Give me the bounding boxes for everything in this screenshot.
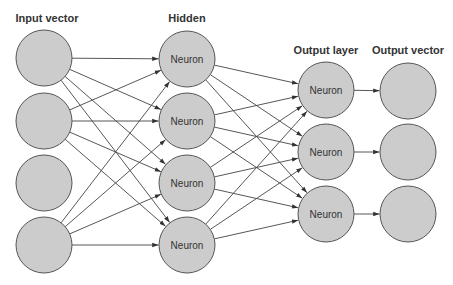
output-vector-node xyxy=(380,63,436,119)
neuron-circle xyxy=(16,30,72,86)
layer-title-hidden: Hidden xyxy=(168,12,206,24)
output-layer-node: Neuron xyxy=(298,124,354,180)
hidden-node: Neuron xyxy=(159,31,215,87)
connection-arrow xyxy=(72,58,159,59)
layer-title-output-layer: Output layer xyxy=(294,44,360,56)
layer-title-input: Input vector xyxy=(16,12,80,24)
neuron-circle xyxy=(16,155,72,211)
connection-arrow xyxy=(70,69,161,109)
connection-arrow xyxy=(214,96,298,115)
neuron-circle xyxy=(380,186,436,242)
input-node xyxy=(16,217,72,273)
connection-arrow xyxy=(210,106,302,168)
connection-arrow xyxy=(214,220,298,239)
neuron-circle xyxy=(380,63,436,119)
input-node xyxy=(16,93,72,149)
neuron-label: Neuron xyxy=(310,209,343,220)
hidden-node: Neuron xyxy=(159,93,215,149)
hidden-node: Neuron xyxy=(159,217,215,273)
output-vector-node xyxy=(380,124,436,180)
neuron-label: Neuron xyxy=(171,116,204,127)
layer-title-output-vector: Output vector xyxy=(372,44,445,56)
neuron-label: Neuron xyxy=(310,85,343,96)
neuron-label: Neuron xyxy=(171,178,204,189)
neuron-circle xyxy=(380,124,436,180)
connection-arrow xyxy=(214,65,298,84)
output-vector-node xyxy=(380,186,436,242)
neural-network-diagram: NeuronNeuronNeuronNeuronNeuronNeuronNeur… xyxy=(0,0,453,285)
neuron-circle xyxy=(16,217,72,273)
output-layer-node: Neuron xyxy=(298,62,354,118)
neuron-circle xyxy=(16,93,72,149)
neuron-label: Neuron xyxy=(171,54,204,65)
output-layer-node: Neuron xyxy=(298,186,354,242)
input-node xyxy=(16,155,72,211)
neuron-label: Neuron xyxy=(310,147,343,158)
connection-arrow xyxy=(70,194,161,234)
connection-arrow xyxy=(210,168,302,230)
layer-titles: Input vectorHiddenOutput layerOutput vec… xyxy=(16,12,445,56)
neuron-label: Neuron xyxy=(171,240,204,251)
hidden-node: Neuron xyxy=(159,155,215,211)
input-node xyxy=(16,30,72,86)
